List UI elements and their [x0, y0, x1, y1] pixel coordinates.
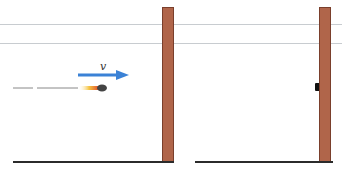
motion-trail	[78, 86, 100, 90]
wall-right	[319, 7, 331, 162]
ground-right	[195, 161, 333, 163]
velocity-label: v	[100, 60, 106, 73]
bullet-icon	[97, 85, 107, 92]
ground-left	[13, 161, 174, 163]
wall-left	[162, 7, 174, 162]
